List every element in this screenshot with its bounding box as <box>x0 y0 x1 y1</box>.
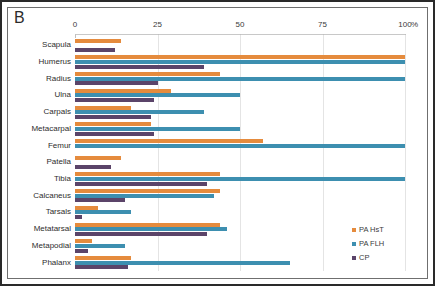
bar-cp <box>75 198 125 202</box>
bar-pa-hst <box>75 223 220 227</box>
chart-legend: PA HsTPA FLHCP <box>352 224 384 266</box>
bar-group: Ulna <box>75 87 405 104</box>
bar-pa-flh <box>75 127 240 131</box>
figure-panel: B 0255075100 % ScapulaHumerusRadiusUlnaC… <box>0 0 435 286</box>
bar-cp <box>75 249 88 253</box>
legend-swatch-icon <box>352 242 356 246</box>
category-label-phalanx: Phalanx <box>0 258 71 267</box>
bar-pa-hst <box>75 122 151 126</box>
bar-cp <box>75 182 207 186</box>
x-axis-tick-label: 25 <box>153 20 162 29</box>
bar-cp <box>75 65 204 69</box>
bar-cp <box>75 265 128 269</box>
bar-group: Scapula <box>75 37 405 54</box>
category-label-scapula: Scapula <box>0 40 71 49</box>
bar-pa-flh <box>75 144 405 148</box>
bar-group: Metacarpal <box>75 121 405 138</box>
bar-pa-hst <box>75 172 220 176</box>
legend-label: PA FLH <box>359 238 384 250</box>
bar-cp <box>75 132 154 136</box>
bar-pa-hst <box>75 39 121 43</box>
bar-pa-hst <box>75 206 98 210</box>
bar-pa-flh <box>75 77 405 81</box>
category-label-humerus: Humerus <box>0 57 71 66</box>
bar-pa-hst <box>75 106 131 110</box>
x-axis-tick-label: 50 <box>236 20 245 29</box>
bar-pa-flh <box>75 227 227 231</box>
bar-pa-hst <box>75 55 405 59</box>
legend-item: CP <box>352 252 384 264</box>
gridline <box>405 35 406 271</box>
x-axis-tick-label: 100 <box>398 20 411 29</box>
bar-cp <box>75 81 158 85</box>
bar-pa-hst <box>75 139 263 143</box>
legend-swatch-icon <box>352 256 356 260</box>
category-label-ulna: Ulna <box>0 90 71 99</box>
bar-pa-flh <box>75 110 204 114</box>
category-label-tarsals: Tarsals <box>0 207 71 216</box>
bar-pa-flh <box>75 194 214 198</box>
x-axis-unit-label: % <box>411 20 418 29</box>
category-label-calcaneus: Calcaneus <box>0 191 71 200</box>
bar-pa-flh <box>75 177 405 181</box>
bar-cp <box>75 165 111 169</box>
category-label-tibia: Tibia <box>0 174 71 183</box>
bar-pa-flh <box>75 93 240 97</box>
legend-item: PA HsT <box>352 224 384 236</box>
bar-group: Femur <box>75 137 405 154</box>
legend-swatch-icon <box>352 228 356 232</box>
category-label-patella: Patella <box>0 157 71 166</box>
bar-pa-flh <box>75 60 405 64</box>
bar-group: Humerus <box>75 54 405 71</box>
category-label-metatarsal: Metatarsal <box>0 224 71 233</box>
bar-pa-hst <box>75 89 171 93</box>
category-label-radius: Radius <box>0 74 71 83</box>
category-label-femur: Femur <box>0 141 71 150</box>
bar-group: Tarsals <box>75 204 405 221</box>
bar-group: Calcaneus <box>75 187 405 204</box>
bar-cp <box>75 115 151 119</box>
bar-pa-flh <box>75 261 290 265</box>
bar-pa-hst <box>75 156 121 160</box>
category-label-carpals: Carpals <box>0 107 71 116</box>
legend-item: PA FLH <box>352 238 384 250</box>
legend-label: CP <box>359 252 369 264</box>
x-axis-tick-label: 75 <box>318 20 327 29</box>
bar-pa-hst <box>75 72 220 76</box>
bar-cp <box>75 98 154 102</box>
bar-group: Radius <box>75 70 405 87</box>
legend-label: PA HsT <box>359 224 384 236</box>
bar-pa-hst <box>75 189 220 193</box>
bar-group: Tibia <box>75 171 405 188</box>
category-label-metapodial: Metapodial <box>0 241 71 250</box>
bar-group: Patella <box>75 154 405 171</box>
category-label-metacarpal: Metacarpal <box>0 124 71 133</box>
bar-pa-flh <box>75 210 131 214</box>
bar-cp <box>75 48 115 52</box>
bar-pa-hst <box>75 256 131 260</box>
bar-group: Carpals <box>75 104 405 121</box>
bar-cp <box>75 232 207 236</box>
x-axis-tick-label: 0 <box>73 20 77 29</box>
panel-label: B <box>14 9 25 27</box>
bar-pa-flh <box>75 244 125 248</box>
bar-cp <box>75 215 82 219</box>
bar-pa-hst <box>75 239 92 243</box>
